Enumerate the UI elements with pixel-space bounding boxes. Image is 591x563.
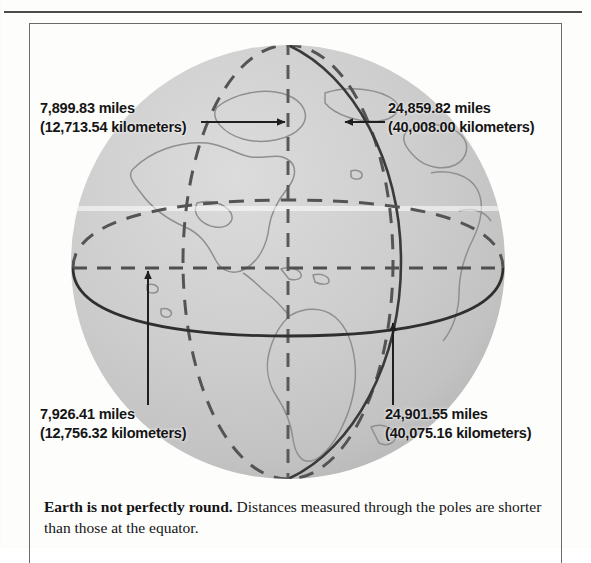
figure-caption: Earth is not perfectly round. Distances …: [44, 497, 544, 539]
callout-equator-circumference-top: 24,859.82 miles (40,008.00 kilometers): [388, 99, 534, 136]
callout-equator-circumference-bottom: 24,901.55 miles (40,075.16 kilometers): [385, 405, 531, 442]
callout-polar-diameter-top: 7,899.83 miles (12,713.54 kilometers): [40, 99, 186, 136]
figure-caption-lead: Earth is not perfectly round.: [44, 498, 233, 515]
callout-polar-diameter-bottom: 7,926.41 miles (12,756.32 kilometers): [40, 405, 186, 442]
callout-polar-diameter-top-kilometers: (12,713.54 kilometers): [40, 118, 186, 137]
scan-highlight-band: [29, 206, 562, 211]
top-horizontal-rule: [4, 11, 582, 13]
callout-polar-diameter-bottom-miles: 7,926.41 miles: [40, 406, 135, 422]
callout-equator-circumference-bottom-kilometers: (40,075.16 kilometers): [385, 424, 531, 443]
callout-polar-diameter-top-miles: 7,899.83 miles: [40, 100, 135, 116]
callout-polar-diameter-bottom-kilometers: (12,756.32 kilometers): [40, 424, 186, 443]
callout-equator-circumference-top-kilometers: (40,008.00 kilometers): [388, 118, 534, 137]
callout-equator-circumference-bottom-miles: 24,901.55 miles: [385, 406, 488, 422]
callout-equator-circumference-top-miles: 24,859.82 miles: [388, 100, 491, 116]
